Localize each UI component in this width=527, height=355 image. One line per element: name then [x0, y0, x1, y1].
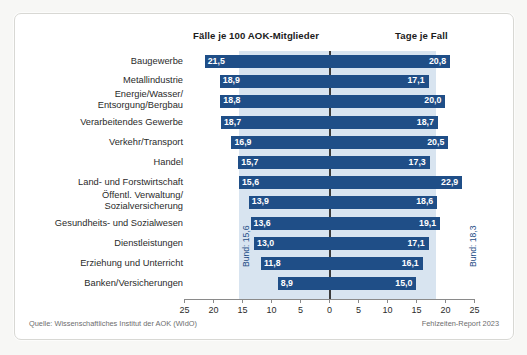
- bar-row: Öffentl. Verwaltung/ Sozialversicherung1…: [15, 194, 513, 211]
- bar-right-value: 16,1: [15, 257, 419, 270]
- axis-tick: [387, 299, 388, 303]
- bar-right-value: 17,3: [15, 156, 426, 169]
- chart-frame: Fälle je 100 AOK-Mitglieder Tage je Fall…: [14, 13, 514, 340]
- axis-tick-label: 10: [382, 305, 392, 315]
- bund-left-label: Bund: 15,6: [241, 225, 251, 267]
- bar-right-value: 22,9: [15, 176, 458, 189]
- axis-tick-label: 25: [469, 305, 479, 315]
- bar-right-value: 20,0: [15, 94, 441, 107]
- bar-row: Metallindustrie18,917,1: [15, 73, 513, 90]
- bar-row: Dienstleistungen13,017,1: [15, 235, 513, 252]
- axis-tick: [271, 299, 272, 303]
- axis-tick: [184, 299, 185, 303]
- axis-tick-label: 20: [208, 305, 218, 315]
- bar-row: Banken/Versicherungen8,915,0: [15, 275, 513, 292]
- right-column-header: Tage je Fall: [395, 30, 448, 41]
- bar-right-value: 19,1: [15, 217, 436, 230]
- report-note: Fehlzeiten-Report 2023: [422, 319, 499, 328]
- bar-row: Verarbeitendes Gewerbe18,718,7: [15, 114, 513, 131]
- axis-tick: [213, 299, 214, 303]
- axis-tick: [445, 299, 446, 303]
- bar-row: Handel15,717,3: [15, 154, 513, 171]
- bar-row: Baugewerbe21,520,8: [15, 53, 513, 70]
- bar-right-value: 18,6: [15, 195, 433, 208]
- axis-tick: [474, 299, 475, 303]
- bar-right-value: 17,1: [15, 74, 425, 87]
- bar-right-value: 15,0: [15, 277, 412, 290]
- axis-tick: [358, 299, 359, 303]
- bund-right-label: Bund: 18,3: [468, 225, 478, 267]
- bar-right-value: 17,1: [15, 237, 425, 250]
- bar-right-value: 18,7: [15, 116, 434, 129]
- axis-tick-label: 10: [266, 305, 276, 315]
- bar-right-value: 20,5: [15, 136, 444, 149]
- bar-row: Gesundheits- und Sozialwesen13,619,1: [15, 215, 513, 232]
- axis-tick-label: 5: [298, 305, 303, 315]
- axis-tick: [242, 299, 243, 303]
- axis-tick-label: 0: [327, 305, 332, 315]
- bar-row: Erziehung und Unterricht11,816,1: [15, 255, 513, 272]
- bar-row: Verkehr/Transport16,920,5: [15, 134, 513, 151]
- bar-right-value: 20,8: [15, 55, 446, 68]
- left-column-header: Fälle je 100 AOK-Mitglieder: [193, 30, 319, 41]
- source-note: Quelle: Wissenschaftliches Institut der …: [29, 319, 197, 328]
- plot-area: Baugewerbe21,520,8Metallindustrie18,917,…: [15, 51, 513, 299]
- axis-tick-label: 15: [411, 305, 421, 315]
- axis-tick: [416, 299, 417, 303]
- axis-tick-label: 15: [237, 305, 247, 315]
- axis-tick: [300, 299, 301, 303]
- axis-tick-label: 25: [179, 305, 189, 315]
- axis-tick-label: 20: [440, 305, 450, 315]
- chart-footer: Quelle: Wissenschaftliches Institut der …: [15, 319, 513, 339]
- chart-screenshot: Fälle je 100 AOK-Mitglieder Tage je Fall…: [0, 0, 527, 355]
- bar-row: Energie/Wasser/ Entsorgung/Bergbau18,820…: [15, 93, 513, 110]
- axis-tick: [329, 299, 330, 303]
- axis-tick-label: 5: [356, 305, 361, 315]
- bar-row: Land- und Forstwirtschaft15,622,9: [15, 174, 513, 191]
